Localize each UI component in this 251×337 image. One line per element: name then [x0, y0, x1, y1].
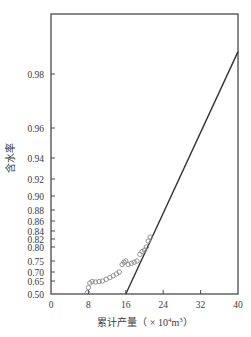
data-point	[132, 260, 136, 264]
y-tick-label: 0.92	[27, 175, 44, 185]
y-tick-label: 0.90	[27, 192, 44, 202]
y-tick-label: 0.80	[27, 243, 44, 253]
y-tick-label: 0.50	[27, 290, 44, 300]
y-axis-title: 含水率	[4, 143, 16, 173]
water-cut-chart: 0816243240 0.980.960.940.920.900.880.860…	[0, 0, 251, 337]
x-tick-label: 24	[158, 300, 168, 310]
data-point	[86, 285, 90, 289]
fit-line	[126, 52, 238, 294]
data-point	[138, 252, 142, 256]
x-tick-label: 40	[233, 300, 243, 310]
y-tick-label: 0.86	[27, 217, 44, 227]
data-point	[135, 259, 139, 263]
y-tick-label: 0.96	[27, 124, 44, 134]
x-tick-label: 0	[49, 300, 54, 310]
x-tick-label: 16	[121, 300, 131, 310]
y-tick-label: 0.94	[27, 154, 44, 164]
x-tick-label: 8	[86, 300, 91, 310]
y-tick-label: 0.88	[27, 206, 44, 216]
y-tick-label: 0.65	[27, 277, 44, 287]
y-tick-label: 0.98	[27, 70, 44, 80]
fit-line-path	[126, 52, 238, 294]
y-tick-label: 0.75	[27, 257, 44, 267]
x-axis-title: 累计产量（ × 104m3）	[97, 316, 192, 328]
x-tick-label: 32	[196, 300, 206, 310]
x-axis: 0816243240	[49, 290, 243, 310]
data-points	[85, 235, 152, 295]
